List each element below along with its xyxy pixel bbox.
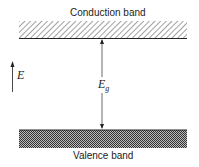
band-gap-label: Eg <box>97 77 110 93</box>
valence-band-label: Valence band <box>73 150 133 161</box>
conduction-band <box>19 21 187 39</box>
energy-axis-label: E <box>17 68 24 83</box>
band-gap-label-sub: g <box>105 84 109 93</box>
conduction-band-label: Conduction band <box>70 7 146 18</box>
energy-axis-arrow <box>11 61 15 92</box>
valence-band <box>19 130 187 148</box>
